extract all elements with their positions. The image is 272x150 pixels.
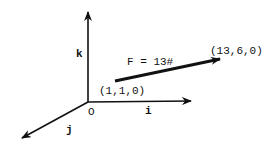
i-axis: [88, 101, 191, 102]
j-axis: [22, 102, 88, 138]
vector-diagram: [0, 0, 272, 150]
origin-label: O: [88, 107, 95, 118]
k-axis-label: k: [76, 49, 83, 60]
end-point-label: (13,6,0): [210, 46, 263, 57]
force-vector-label: F = 13#: [127, 57, 173, 68]
start-point-label: (1,1,0): [99, 86, 145, 97]
j-axis-label: j: [66, 125, 73, 136]
i-axis-label: i: [145, 106, 152, 117]
